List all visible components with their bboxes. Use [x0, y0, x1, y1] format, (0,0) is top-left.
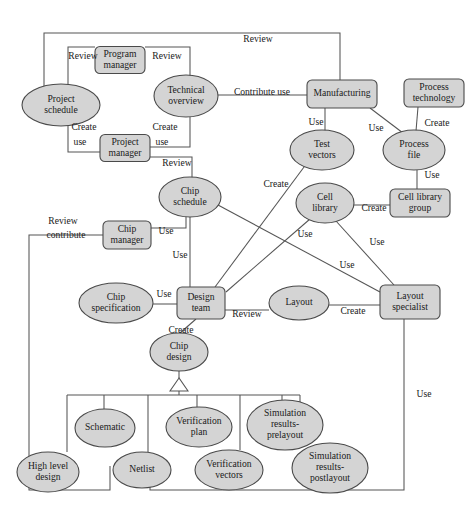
- edge-label-lbl-review-top: Review: [243, 33, 272, 44]
- node-layout[interactable]: Layout: [269, 286, 329, 320]
- edge-label-lbl-use-cl-dt: Use: [298, 228, 313, 239]
- edge-label-lbl-use-cl-ls: Use: [370, 236, 385, 247]
- node-netlist[interactable]: Netlist: [113, 452, 171, 488]
- node-process-file[interactable]: Processfile: [383, 130, 445, 170]
- edge-label-lbl-contribute-use: Contribute use: [234, 86, 290, 97]
- node-program-manager[interactable]: Programmanager: [95, 47, 145, 74]
- edge-label-lbl-use-pf-clg: Use: [425, 169, 440, 180]
- layout-specialist-label: Layoutspecialist: [392, 290, 428, 312]
- node-chip-schedule[interactable]: Chipschedule: [159, 177, 221, 217]
- node-design-team[interactable]: Designteam: [177, 287, 225, 319]
- node-cell-library[interactable]: Celllibrary: [296, 183, 354, 223]
- edge-label-lbl-create-dt-tv: Create: [263, 178, 288, 189]
- edge-label-lbl-create-ls-lay: Create: [340, 305, 365, 316]
- edge-labels-layer: ReviewReviewReviewContribute useCreateus…: [47, 33, 450, 399]
- edge-cell-library-layout-specialist: [336, 221, 394, 285]
- diagram-canvas: ProjectscheduleProgrammanagerTechnicalov…: [0, 0, 474, 518]
- edge-process-technology-process-file: [416, 107, 418, 131]
- layout-label: Layout: [285, 296, 313, 307]
- edge-label-lbl-use-spec-dt: Use: [157, 288, 172, 299]
- edge-design-team-test-vectors: [215, 163, 307, 287]
- node-project-schedule[interactable]: Projectschedule: [22, 84, 100, 126]
- node-manufacturing[interactable]: Manufacturing: [307, 80, 377, 108]
- node-test-vectors[interactable]: Testvectors: [290, 130, 354, 170]
- edge-label-lbl-create-dt-cd: Create: [168, 324, 193, 335]
- edge-label-lbl-use-csch-ls: Use: [340, 259, 355, 270]
- node-verification-plan[interactable]: Verificationplan: [166, 407, 232, 447]
- node-process-technology[interactable]: Processtechnology: [404, 79, 464, 107]
- node-chip-design[interactable]: Chipdesign: [150, 333, 208, 371]
- edge-label-lbl-review-ps-pm: Review: [68, 50, 97, 61]
- node-layout-specialist[interactable]: Layoutspecialist: [380, 285, 440, 319]
- entity-relationship-diagram: ProjectscheduleProgrammanagerTechnicalov…: [0, 0, 474, 518]
- edge-label-lbl-create-pt-pf: Create: [424, 117, 449, 128]
- program-manager-label: Programmanager: [103, 48, 137, 70]
- edge-label-lbl-use-cs-dt: Use: [173, 249, 188, 260]
- edge-label-lbl-use-mfg-tv: Use: [309, 116, 324, 127]
- edge-label-lbl-create-cl-clg: Create: [361, 202, 386, 213]
- edge-generalization-bus: [67, 391, 300, 395]
- edge-label-lbl-review: Review: [48, 215, 77, 226]
- edge-label-lbl-use-cm-cs: Use: [159, 225, 174, 236]
- node-high-level-design[interactable]: High leveldesign: [17, 452, 79, 492]
- edge-label-lbl-use-ls-cd: Use: [417, 388, 432, 399]
- node-verification-vectors[interactable]: Verificationvectors: [195, 450, 263, 490]
- edge-label-lbl-review-pm-cs: Review: [162, 157, 191, 168]
- node-technical-overview[interactable]: Technicaloverview: [154, 75, 218, 117]
- edge-label-lbl-create-l1: Create: [71, 121, 96, 132]
- generalization-triangle-icon: [170, 378, 188, 391]
- edge-chip-schedule-layout-specialist: [218, 205, 380, 292]
- netlist-label: Netlist: [129, 463, 155, 474]
- edge-label-lbl-create-l2: Create: [152, 121, 177, 132]
- manufacturing-label: Manufacturing: [313, 87, 370, 98]
- edge-label-lbl-contribute: contribute: [47, 229, 86, 240]
- node-chip-manager[interactable]: Chipmanager: [103, 221, 151, 249]
- edge-chip-manager-chip-design: [29, 235, 110, 490]
- node-simulation-results-prelayout[interactable]: Simulationresults-prelayout: [247, 400, 323, 450]
- edge-label-lbl-use-l1: use: [74, 136, 87, 147]
- schematic-label: Schematic: [85, 421, 125, 432]
- project-manager-label: Projectmanager: [108, 136, 142, 158]
- chip-design-label: Chipdesign: [166, 340, 191, 362]
- edge-label-lbl-use-l2: use: [156, 136, 169, 147]
- technical-overview-label: Technicaloverview: [167, 84, 204, 106]
- edge-label-lbl-review-dt-lay: Review: [232, 308, 261, 319]
- node-schematic[interactable]: Schematic: [75, 409, 135, 447]
- node-simulation-results-postlayout[interactable]: Simulationresults-postlayout: [292, 443, 368, 493]
- edge-label-lbl-use-mfg-pf: Use: [369, 122, 384, 133]
- node-project-manager[interactable]: Projectmanager: [100, 135, 150, 162]
- node-cell-library-group[interactable]: Cell librarygroup: [390, 189, 450, 217]
- project-schedule-label: Projectschedule: [44, 93, 78, 115]
- edge-label-lbl-review-pm-to: Review: [152, 50, 181, 61]
- node-chip-specification[interactable]: Chipspecification: [79, 283, 153, 323]
